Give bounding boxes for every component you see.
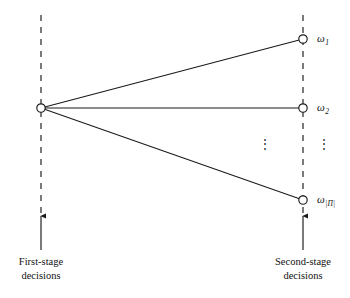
omega-subscript-1: 1 — [325, 38, 329, 47]
diagram-canvas — [0, 0, 350, 298]
scenario-tree-figure: ω1 ω2 ω|Π| ⋮ ⋮ First-stage decisions Sec… — [0, 0, 350, 298]
omega-subscript-2: 2 — [325, 107, 329, 116]
vertical-ellipsis-icon-right: ⋮ — [318, 138, 330, 150]
omega-symbol-1: ω — [317, 32, 325, 44]
first-stage-node — [37, 104, 45, 112]
second-stage-caption-line2: decisions — [255, 270, 350, 282]
omega-symbol-last: ω — [317, 193, 325, 205]
omega-subscript-last: |Π| — [325, 199, 335, 208]
vertical-ellipsis-icon-left: ⋮ — [259, 138, 271, 150]
scenario-label-last: ω|Π| — [317, 193, 335, 206]
scenario-node-1 — [299, 35, 307, 43]
second-stage-caption-line1: Second-stage — [255, 256, 350, 268]
scenario-label-2: ω2 — [317, 101, 329, 114]
scenario-label-1: ω1 — [317, 32, 329, 45]
scenario-node-last — [299, 196, 307, 204]
edge-root-to-scenario-1 — [41, 39, 303, 108]
first-stage-caption-line1: First-stage — [0, 256, 82, 268]
omega-symbol-2: ω — [317, 101, 325, 113]
first-stage-caption: First-stage decisions — [0, 256, 82, 283]
first-stage-caption-line2: decisions — [0, 270, 82, 282]
edge-root-to-scenario-last — [41, 108, 303, 200]
scenario-node-2 — [299, 104, 307, 112]
second-stage-caption: Second-stage decisions — [255, 256, 350, 283]
